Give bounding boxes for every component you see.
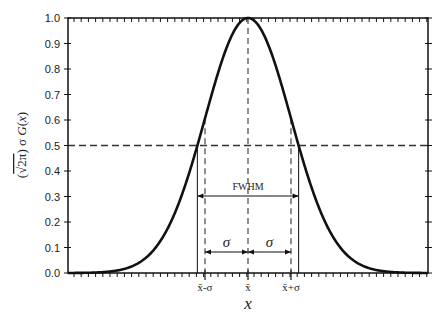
y-tick-label: 0.4 (45, 165, 60, 177)
x-axis-label: x (243, 294, 252, 313)
fwhm-label: FWHM (232, 181, 263, 192)
y-axis-label: (√2π) σ G(x) (14, 112, 29, 178)
x-tick-label: x̄+σ (282, 281, 300, 293)
x-tick-label: x̄-σ (197, 281, 212, 293)
y-tick-label: 0.8 (45, 63, 60, 75)
svg-text:(√2π) σ G(x): (√2π) σ G(x) (14, 112, 29, 178)
y-tick-label: 1.0 (45, 12, 60, 24)
y-tick-label: 0.1 (45, 242, 60, 254)
sigma-label: σ (223, 234, 231, 250)
y-tick-label: 0.0 (45, 267, 60, 279)
y-tick-label: 0.2 (45, 216, 60, 228)
x-tick-label: x̄ (245, 281, 251, 293)
gaussian-chart: 0.00.10.20.30.40.50.60.70.80.91.0 x̄-σx̄… (0, 0, 446, 322)
y-tick-label: 0.3 (45, 191, 60, 203)
y-tick-label: 0.9 (45, 38, 60, 50)
y-tick-label: 0.7 (45, 89, 60, 101)
y-tick-label: 0.6 (45, 114, 60, 126)
y-tick-label: 0.5 (45, 140, 60, 152)
sigma-label: σ (266, 234, 274, 250)
guide-lines (68, 18, 428, 273)
